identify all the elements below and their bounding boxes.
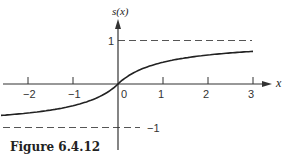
- x-axis-label: x: [275, 76, 282, 90]
- x-tick-label: −2: [23, 88, 36, 100]
- x-axis-arrow-icon: [262, 81, 272, 87]
- y-axis-label: s(x): [112, 5, 129, 18]
- plot-area: xs(x)−2−101231−1: [0, 0, 286, 159]
- x-tick-label: 0: [121, 88, 127, 100]
- x-tick-label: 1: [158, 88, 164, 100]
- x-tick-label: 3: [248, 88, 254, 100]
- figure: xs(x)−2−101231−1 Figure 6.4.12: [0, 0, 286, 159]
- y-tick-label: −1: [147, 122, 160, 134]
- figure-caption: Figure 6.4.12: [10, 140, 100, 154]
- x-tick-label: −1: [68, 88, 81, 100]
- y-tick-label: 1: [108, 35, 114, 47]
- x-tick-label: 2: [203, 88, 209, 100]
- y-axis-arrow-icon: [115, 19, 121, 29]
